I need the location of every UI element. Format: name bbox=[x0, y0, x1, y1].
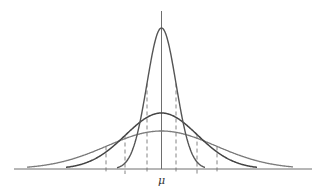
normal-distribution-diagram bbox=[0, 0, 315, 191]
wide-normal-curve bbox=[27, 131, 293, 167]
mean-label: μ bbox=[158, 174, 165, 187]
